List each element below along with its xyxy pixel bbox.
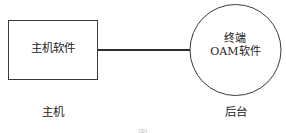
terminal-oam-label-line2: OAM软件 — [190, 46, 281, 59]
host-zone-label: 主机 — [8, 103, 98, 119]
figure-caption: 图 — [0, 126, 286, 133]
backend-zone-label: 后台 — [190, 103, 281, 119]
host-software-label: 主机软件 — [8, 42, 98, 56]
figure-diagram: 主机软件 终端 OAM软件 主机 后台 图 — [0, 0, 286, 133]
terminal-oam-label: 终端 OAM软件 — [190, 33, 281, 59]
